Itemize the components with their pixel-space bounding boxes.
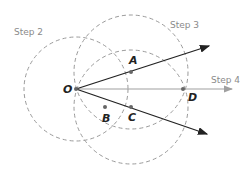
- step2-label: Step 2: [14, 27, 43, 37]
- step3-label: Step 3: [170, 20, 199, 30]
- label-o: O: [63, 83, 72, 96]
- point-d: [181, 87, 185, 91]
- label-d: D: [188, 91, 197, 104]
- point-o: [74, 87, 78, 91]
- point-a: [129, 70, 133, 74]
- label-a: A: [128, 54, 138, 67]
- point-c: [129, 105, 133, 109]
- label-c: C: [128, 111, 136, 124]
- upper-ray: [76, 46, 209, 89]
- point-b: [103, 105, 107, 109]
- angle-bisector-diagram: O A B C D Step 2 Step 3 Step 4: [0, 0, 252, 177]
- label-b: B: [102, 112, 110, 125]
- step4-label: Step 4: [211, 75, 240, 85]
